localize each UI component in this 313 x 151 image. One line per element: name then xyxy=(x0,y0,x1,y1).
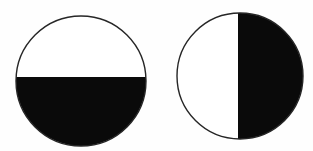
left-circle-bottom-half-shaded xyxy=(16,16,146,146)
scanned-figure-page xyxy=(0,0,313,151)
right-circle-right-half-shaded xyxy=(177,13,303,139)
two-half-shaded-circles-figure xyxy=(0,0,313,151)
